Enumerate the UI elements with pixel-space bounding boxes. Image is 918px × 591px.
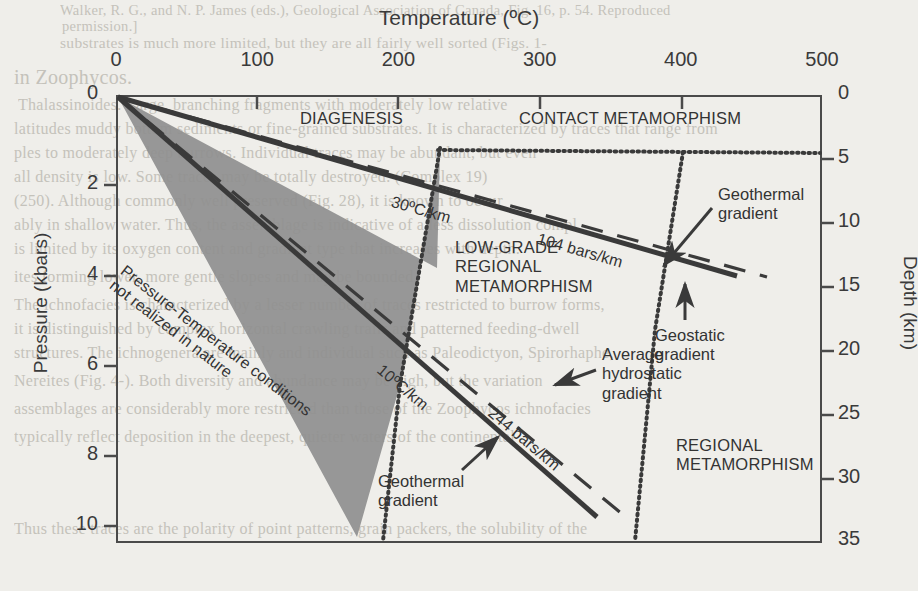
label-geothermal-gradient-top: Geothermal gradient bbox=[718, 185, 804, 224]
label-contact-metamorphism: CONTACT METAMORPHISM bbox=[519, 109, 741, 128]
arrow-avg-hydrostatic bbox=[555, 370, 596, 385]
boundary-contact-top bbox=[438, 150, 820, 153]
label-geothermal-gradient-bottom: Geothermal gradient bbox=[378, 472, 464, 511]
label-regional-metamorphism: REGIONAL METAMORPHISM bbox=[676, 436, 814, 475]
x-axis-ticks bbox=[257, 96, 682, 109]
arrow-geothermal-bottom bbox=[462, 437, 498, 470]
y-left-ticks bbox=[104, 185, 118, 526]
y-right-ticks bbox=[820, 159, 834, 479]
label-average-hydrostatic-gradient: Average hydrostatic gradient bbox=[602, 345, 682, 403]
figure-canvas: Walker, R. G., and N. P. James (eds.), G… bbox=[0, 0, 918, 591]
label-diagenesis: DIAGENESIS bbox=[300, 109, 403, 128]
